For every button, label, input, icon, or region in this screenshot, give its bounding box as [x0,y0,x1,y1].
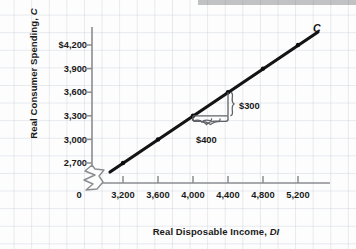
chart-figure: Real Consumer Spending, C Real Disposabl… [0,0,356,249]
x-tick-marks [123,176,298,183]
data-point [156,137,160,141]
data-point [121,161,125,165]
y-tick-marks [85,45,92,163]
rise-brace-icon [231,93,234,116]
series-line-c [110,32,318,172]
axis-break-icon [84,165,104,190]
data-point [261,66,265,70]
plot-area [0,0,356,249]
data-point [296,43,300,47]
